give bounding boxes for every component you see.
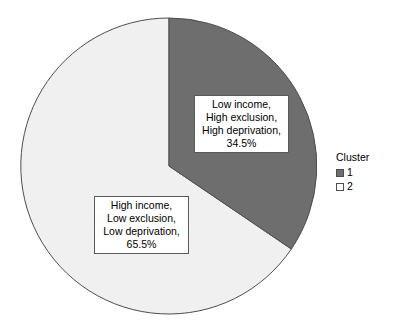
slice-label-line: Low deprivation,: [103, 225, 179, 238]
slice-label-percent: 34.5%: [227, 137, 257, 150]
slice-label-line: Low income,: [212, 98, 271, 111]
slice-label-percent: 65.5%: [127, 238, 157, 251]
legend: Cluster 1 2: [336, 151, 394, 194]
legend-swatch-icon: [336, 169, 344, 177]
pie-chart-figure: Low income, High exclusion, High depriva…: [0, 0, 398, 334]
slice-label-line: High income,: [111, 199, 172, 212]
slice-label-cluster-2: High income, Low exclusion, Low deprivat…: [94, 196, 189, 254]
legend-item-cluster-1[interactable]: 1: [336, 166, 394, 179]
slice-label-line: High deprivation,: [202, 124, 281, 137]
slice-label-cluster-1: Low income, High exclusion, High depriva…: [194, 95, 289, 153]
legend-title: Cluster: [336, 151, 394, 164]
legend-swatch-icon: [336, 183, 344, 191]
slice-label-line: High exclusion,: [206, 111, 277, 124]
legend-item-label: 2: [347, 180, 353, 193]
slice-label-line: Low exclusion,: [107, 212, 176, 225]
legend-item-label: 1: [347, 166, 353, 179]
legend-item-cluster-2[interactable]: 2: [336, 180, 394, 193]
